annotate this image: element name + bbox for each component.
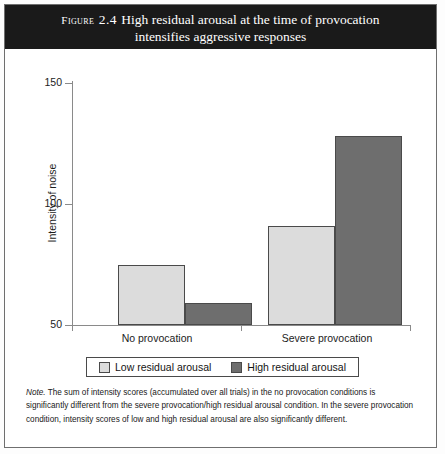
x-tick-middle xyxy=(241,325,242,331)
figure-label: Figure xyxy=(61,12,94,27)
figure-number: 2.4 xyxy=(99,12,117,27)
legend-label-high: High residual arousal xyxy=(247,361,346,373)
plot-area: Intensity of noise xyxy=(72,83,410,325)
bar-no-provocation-low xyxy=(118,265,185,326)
bar-severe-provocation-high xyxy=(335,136,402,325)
legend-item-high: High residual arousal xyxy=(231,361,346,373)
x-tick-start xyxy=(72,325,73,331)
note-word: Note. xyxy=(26,388,46,397)
legend-swatch-high-icon xyxy=(231,362,242,373)
figure-label-word: Figure xyxy=(61,14,94,26)
x-category-no-provocation: No provocation xyxy=(90,332,224,344)
legend-item-low: Low residual arousal xyxy=(99,361,211,373)
legend-swatch-low-icon xyxy=(99,362,110,373)
figure-title-text: Figure 2.4 High residual arousal at the … xyxy=(53,9,387,45)
figure-container: Figure 2.4 High residual arousal at the … xyxy=(0,0,445,454)
legend-label-low: Low residual arousal xyxy=(115,361,211,373)
note-line-3: intensity scores of low and high residua… xyxy=(63,415,347,424)
x-tick-end xyxy=(410,325,411,331)
y-tick-label-50: 50 xyxy=(30,318,62,330)
figure-title-bar: Figure 2.4 High residual arousal at the … xyxy=(5,5,436,49)
figure-note: Note. The sum of intensity scores (accum… xyxy=(26,386,418,426)
figure-title-line-2: intensifies aggressive responses xyxy=(61,29,379,45)
x-category-severe-provocation: Severe provocation xyxy=(258,332,396,344)
bar-severe-provocation-low xyxy=(268,226,335,325)
figure-title-line-1: High residual arousal at the time of pro… xyxy=(121,12,379,27)
y-axis-label: Intensity of noise xyxy=(46,164,58,243)
chart-legend: Low residual arousal High residual arous… xyxy=(86,357,359,377)
y-tick-label-150: 150 xyxy=(30,76,62,88)
bar-no-provocation-high xyxy=(185,303,252,325)
